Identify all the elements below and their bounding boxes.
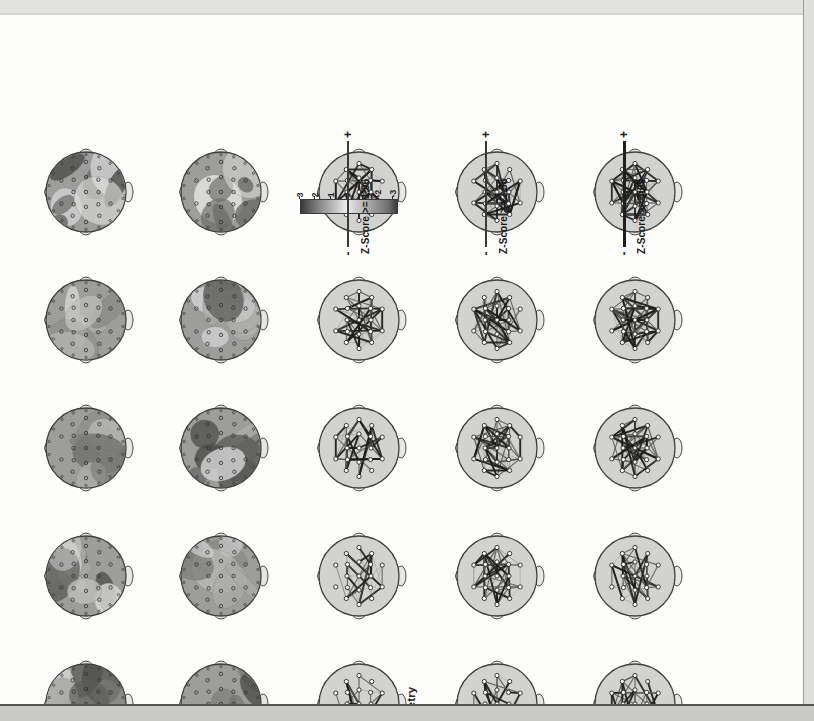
head-map-cell — [297, 256, 419, 384]
z-legend-309: - + — [616, 130, 632, 258]
scan-top-band — [0, 0, 814, 14]
head-map-cell — [435, 128, 557, 256]
topographic-head-map — [35, 400, 135, 496]
head-map-cell — [24, 512, 146, 640]
z-legend-label-258: Z-Score >= 2.58 — [498, 179, 509, 254]
z-legend-label-309: Z-Score >= 3.09 — [636, 179, 647, 254]
head-map-cell — [573, 512, 695, 640]
scan-right-band — [804, 0, 814, 706]
topographic-head-map — [170, 144, 270, 240]
colorbar-tick: 2 — [311, 193, 319, 198]
head-map-cell — [573, 256, 695, 384]
z-legend-plus: + — [620, 130, 629, 139]
topographic-head-map — [170, 400, 270, 496]
z-legend-label-196: Z-Score >= 1.96 — [360, 179, 371, 254]
head-map-cell — [159, 512, 281, 640]
head-map-cell — [24, 384, 146, 512]
scan-bottom-band — [0, 706, 814, 721]
head-map-cell — [435, 384, 557, 512]
connectivity-head-map — [308, 528, 408, 624]
topographic-head-map — [35, 272, 135, 368]
z-legend-bar — [623, 141, 626, 247]
topographic-head-map — [35, 528, 135, 624]
connectivity-head-map — [308, 400, 408, 496]
rotated-report-canvas: Absolute Power Relative Power Amplitude … — [0, 93, 814, 721]
head-map-cell — [435, 256, 557, 384]
head-map-cell — [573, 384, 695, 512]
topographic-head-map — [170, 528, 270, 624]
topographic-head-map — [35, 144, 135, 240]
head-map-cell — [573, 128, 695, 256]
z-legend-plus: + — [344, 130, 353, 139]
colorbar-tick: -2 — [374, 190, 382, 198]
z-legend-bar — [485, 141, 487, 247]
colorbar-tick: 1 — [327, 193, 335, 198]
topographic-head-map — [170, 272, 270, 368]
connectivity-head-map — [446, 528, 546, 624]
connectivity-head-map — [584, 272, 684, 368]
z-legend-minus: - — [344, 249, 353, 258]
report-row-amplitude-asymmetry: Amplitude Asymmetry — [297, 128, 419, 721]
scanned-page: Absolute Power Relative Power Amplitude … — [0, 0, 814, 721]
z-legend-196: - + — [340, 130, 356, 258]
connectivity-head-map — [446, 272, 546, 368]
z-legend-minus: - — [620, 249, 629, 258]
head-map-cell — [159, 384, 281, 512]
head-map-cell — [435, 512, 557, 640]
connectivity-head-map — [584, 400, 684, 496]
head-map-cell — [297, 512, 419, 640]
scan-top-rule — [0, 13, 814, 15]
colorbar-tick: 3 — [296, 193, 304, 198]
connectivity-head-map — [308, 272, 408, 368]
z-legend-minus: - — [482, 249, 491, 258]
qeeg-report: Absolute Power Relative Power Amplitude … — [0, 93, 814, 721]
head-map-cell — [24, 256, 146, 384]
connectivity-head-map — [446, 400, 546, 496]
connectivity-head-map — [446, 144, 546, 240]
head-map-cell — [159, 128, 281, 256]
head-map-cell — [159, 256, 281, 384]
z-legend-258: - + — [478, 130, 494, 258]
connectivity-head-map — [584, 528, 684, 624]
report-row-absolute-power: Absolute Power — [24, 128, 146, 721]
z-legend-bar — [347, 141, 349, 247]
z-legend-plus: + — [482, 130, 491, 139]
head-map-cell — [297, 384, 419, 512]
report-row-coherence: Coherence — [435, 128, 557, 721]
head-map-cell — [24, 128, 146, 256]
connectivity-head-map — [584, 144, 684, 240]
report-row-relative-power: Relative Power — [159, 128, 281, 721]
report-row-phase-lag: Phase Lag — [573, 128, 695, 721]
colorbar-tick: -3 — [389, 190, 397, 198]
